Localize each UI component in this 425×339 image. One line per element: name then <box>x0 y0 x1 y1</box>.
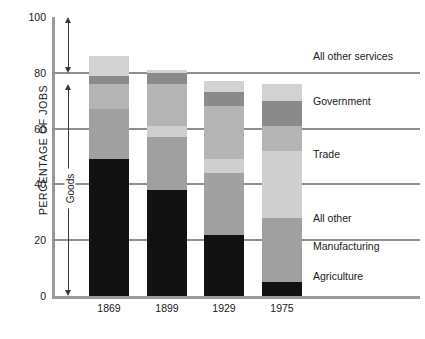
annotation-arrow-head-down <box>65 290 71 296</box>
bar-1929 <box>204 81 244 296</box>
y-tick-label: 40 <box>20 179 46 190</box>
bar-1869 <box>89 56 129 296</box>
series-label: Manufacturing <box>313 240 380 252</box>
bar-segment <box>204 159 244 173</box>
bar-segment <box>147 70 187 73</box>
bar-segment <box>89 159 129 296</box>
y-tick-label: 80 <box>20 68 46 79</box>
annotation-label-goods: Goods <box>65 168 76 208</box>
bar-segment <box>89 56 129 76</box>
y-axis-tick-labels: 020406080100 <box>0 0 46 339</box>
annotation-arrow-head-up <box>65 84 71 90</box>
bar-segment <box>204 106 244 159</box>
annotation-arrow-line <box>68 22 69 68</box>
bar-segment <box>147 126 187 137</box>
bar-segment <box>89 109 129 159</box>
bar-segment <box>89 84 129 109</box>
annotation-arrow-head-up <box>65 17 71 23</box>
series-label: Government <box>313 95 371 107</box>
bar-segment <box>147 73 187 84</box>
bar-segment <box>147 190 187 296</box>
bar-segment <box>262 101 302 126</box>
series-label: All other services <box>313 50 393 62</box>
bar-segment <box>147 84 187 126</box>
x-tick-label: 1929 <box>194 302 254 314</box>
bar-segment <box>204 235 244 296</box>
bar-segment <box>204 173 244 234</box>
bar-segment <box>262 126 302 151</box>
x-tick-label: 1899 <box>137 302 197 314</box>
series-label: Trade <box>313 148 340 160</box>
x-tick-label: 1869 <box>79 302 139 314</box>
y-tick-label: 60 <box>20 124 46 135</box>
bar-segment <box>204 81 244 92</box>
series-label: All other <box>313 212 352 224</box>
bar-1975 <box>262 84 302 296</box>
chart-container: PERCENTAGE OF JOBS 020406080100 Goods 18… <box>0 0 425 339</box>
bar-1899 <box>147 70 187 296</box>
bar-segment <box>262 151 302 218</box>
annotation-arrow-head-down <box>65 67 71 73</box>
bar-segment <box>89 76 129 84</box>
bar-segment <box>204 92 244 106</box>
y-tick-label: 0 <box>20 291 46 302</box>
y-axis-spine <box>52 17 55 299</box>
x-tick-label: 1975 <box>252 302 312 314</box>
x-axis-spine <box>52 296 420 299</box>
bar-segment <box>262 218 302 282</box>
y-tick-label: 20 <box>20 235 46 246</box>
bar-segment <box>147 137 187 190</box>
bar-segment <box>262 84 302 101</box>
y-tick-label: 100 <box>20 12 46 23</box>
bar-segment <box>262 282 302 296</box>
series-label: Agriculture <box>313 270 363 282</box>
